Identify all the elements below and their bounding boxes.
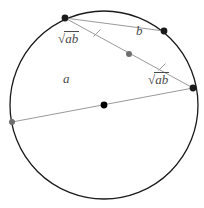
radicand-upper: ab: [64, 31, 79, 45]
radicand-lower: ab: [154, 72, 169, 86]
geometry-figure: √ab √ab a b: [0, 0, 204, 208]
point-upper-right: [161, 28, 168, 35]
chord-b: [65, 18, 164, 31]
point-intersection: [126, 51, 132, 57]
point-top-left: [62, 15, 69, 22]
label-a: a: [63, 72, 70, 85]
geometry-canvas: [0, 0, 204, 208]
label-sqrt-ab-lower: √ab: [148, 72, 169, 86]
point-left: [9, 119, 15, 125]
circle-center-dot: [101, 102, 108, 109]
point-right: [190, 85, 197, 92]
label-b: b: [136, 24, 143, 37]
label-sqrt-ab-upper: √ab: [58, 31, 79, 45]
tick-lower-right-segment: [159, 64, 166, 71]
